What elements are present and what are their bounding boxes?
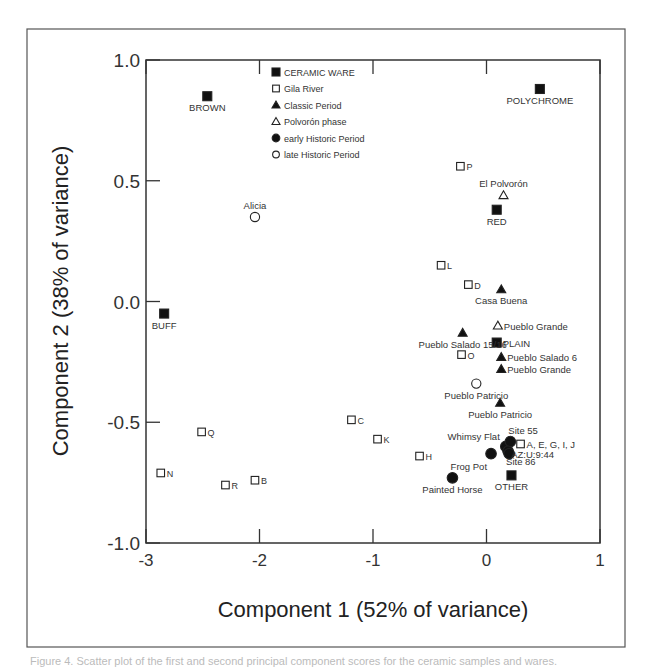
open-square-marker xyxy=(465,281,473,289)
data-point: Pueblo Salado 6 xyxy=(497,352,577,363)
point-label: RED xyxy=(487,216,507,227)
scatter-chart: -3-2-101-1.0-0.50.00.51.0 BROWNPOLYCHROM… xyxy=(0,0,649,670)
point-label: H xyxy=(426,452,433,462)
point-label: Q xyxy=(208,428,215,438)
open-circle-marker xyxy=(273,151,280,158)
point-label: B xyxy=(261,476,267,486)
point-label: C xyxy=(357,416,364,426)
open-square-marker xyxy=(198,428,206,436)
point-label: O xyxy=(468,351,475,361)
legend-item: Polvorón phase xyxy=(272,117,347,127)
point-label: L xyxy=(447,261,452,271)
point-label: AZ:U:9:44 xyxy=(511,449,554,460)
filled-square-marker xyxy=(160,309,169,318)
legend-label: Polvorón phase xyxy=(284,117,347,127)
open-square-marker xyxy=(374,435,382,443)
filled-circle-marker xyxy=(447,473,458,484)
data-point: Pueblo Grande xyxy=(497,364,571,375)
open-square-marker xyxy=(437,261,445,269)
legend-item: late Historic Period xyxy=(273,150,360,160)
legend-label: early Historic Period xyxy=(284,134,365,144)
x-tick-label: 0 xyxy=(482,551,491,570)
x-tick-label: -3 xyxy=(138,551,153,570)
x-tick-label: 1 xyxy=(595,551,604,570)
point-label: POLYCHROME xyxy=(506,95,573,106)
point-label: Whimsy Flat xyxy=(448,431,501,442)
data-point: AZ:U:9:44 xyxy=(504,448,554,459)
point-label: D xyxy=(474,281,481,291)
point-label: Casa Buena xyxy=(475,295,528,306)
open-square-marker xyxy=(157,469,165,477)
point-label: OTHER xyxy=(495,481,528,492)
point-label: K xyxy=(384,435,390,445)
filled-square-marker xyxy=(507,471,516,480)
open-square-marker xyxy=(457,162,465,170)
legend-item: CERAMIC WARE xyxy=(272,68,355,78)
point-label: Pueblo Grande xyxy=(504,321,568,332)
y-axis-label: Component 2 (38% of variance) xyxy=(48,146,73,457)
x-tick-label: -1 xyxy=(365,551,380,570)
point-label: Alicia xyxy=(244,200,267,211)
point-label: Pueblo Patricio xyxy=(468,409,532,420)
open-circle-marker xyxy=(250,212,259,221)
point-label: P xyxy=(466,162,472,172)
filled-square-marker xyxy=(203,92,212,101)
point-label: BROWN xyxy=(189,102,226,113)
open-circle-marker xyxy=(472,379,481,388)
legend-label: late Historic Period xyxy=(284,150,360,160)
legend-item: early Historic Period xyxy=(272,134,364,144)
filled-square-marker xyxy=(492,205,501,214)
data-point: Pueblo Grande xyxy=(493,321,567,332)
open-square-marker xyxy=(348,416,356,424)
y-tick-label: 1.0 xyxy=(114,50,140,71)
open-square-marker xyxy=(251,476,259,484)
x-tick-label: -2 xyxy=(252,551,267,570)
filled-circle-marker xyxy=(486,448,497,459)
legend-label: Gila River xyxy=(284,84,324,94)
open-square-marker xyxy=(517,440,525,448)
point-label: Pueblo Grande xyxy=(507,364,571,375)
y-tick-label: -0.5 xyxy=(107,412,140,433)
point-label: Pueblo Salado 15/16 xyxy=(419,339,507,350)
filled-square-marker xyxy=(272,68,280,76)
y-tick-label: 0.5 xyxy=(114,171,140,192)
y-tick-label: 0.0 xyxy=(114,292,140,313)
filled-square-marker xyxy=(535,84,544,93)
open-square-marker xyxy=(416,452,424,460)
filled-circle-marker xyxy=(505,436,516,447)
open-square-marker xyxy=(273,85,280,92)
point-label: N xyxy=(167,469,174,479)
open-square-marker xyxy=(222,481,230,489)
figure-caption: Figure 4. Scatter plot of the first and … xyxy=(30,655,630,667)
point-label: Frog Pot xyxy=(451,461,488,472)
point-label: Site 55 xyxy=(508,425,538,436)
point-label: Pueblo Patricio xyxy=(444,390,508,401)
open-square-marker xyxy=(458,351,466,359)
point-label: R xyxy=(231,481,238,491)
legend-label: Classic Period xyxy=(284,101,342,111)
point-label: El Polvorón xyxy=(479,178,528,189)
x-axis-label: Component 1 (52% of variance) xyxy=(218,597,529,622)
y-tick-label: -1.0 xyxy=(107,533,140,554)
point-label: BUFF xyxy=(152,320,177,331)
point-label: Painted Horse xyxy=(422,484,482,495)
point-label: PLAIN xyxy=(503,338,531,349)
filled-circle-marker xyxy=(272,134,280,142)
point-label: Pueblo Salado 6 xyxy=(507,352,577,363)
legend-label: CERAMIC WARE xyxy=(284,68,355,78)
